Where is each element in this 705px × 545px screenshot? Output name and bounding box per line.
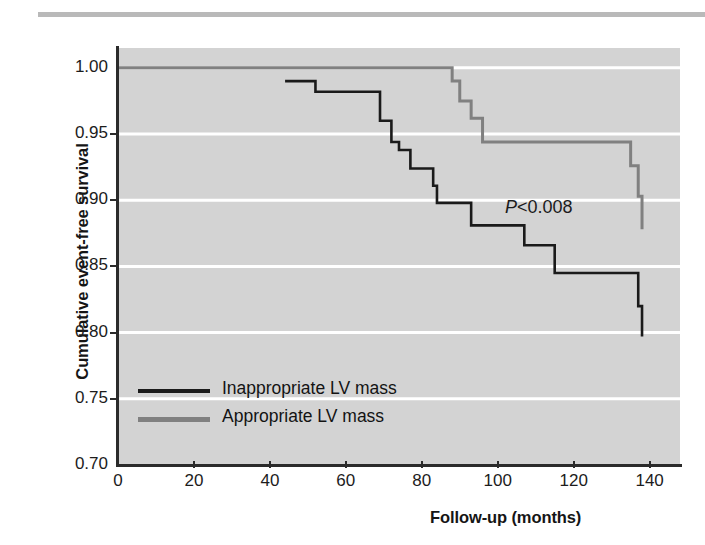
y-tick-mark (110, 265, 118, 267)
x-tick-label: 140 (620, 471, 680, 491)
figure-container: Cumulative event-free survival 0.700.750… (0, 0, 705, 545)
x-tick-mark (497, 461, 499, 468)
legend-entry-label: Appropriate LV mass (222, 406, 384, 427)
y-tick-label: 0.90 (34, 189, 108, 209)
x-tick-mark (421, 461, 423, 468)
series-line-1 (285, 81, 642, 336)
x-tick-label: 100 (468, 471, 528, 491)
x-tick-mark (345, 461, 347, 468)
x-tick-label: 40 (240, 471, 300, 491)
x-tick-mark (649, 461, 651, 468)
x-tick-mark (269, 461, 271, 468)
x-axis-spine (116, 464, 682, 467)
plot-area (118, 48, 680, 465)
y-tick-mark (110, 199, 118, 201)
legend-color-swatch (138, 389, 210, 393)
y-tick-mark (110, 133, 118, 135)
y-tick-label: 0.95 (34, 123, 108, 143)
x-tick-label: 80 (392, 471, 452, 491)
x-axis-title: Follow-up (months) (430, 508, 581, 527)
p-value-annotation: P<0.008 (505, 197, 573, 218)
y-axis-spine (116, 46, 119, 467)
p-symbol: P (505, 197, 517, 217)
x-tick-label: 120 (544, 471, 604, 491)
y-tick-label: 1.00 (34, 57, 108, 77)
gridlines-group (118, 68, 680, 399)
x-tick-mark (573, 461, 575, 468)
x-tick-label: 20 (164, 471, 224, 491)
y-tick-mark (110, 398, 118, 400)
y-tick-label: 0.85 (34, 255, 108, 275)
y-tick-mark (110, 332, 118, 334)
y-tick-label: 0.75 (34, 388, 108, 408)
x-tick-label: 60 (316, 471, 376, 491)
y-tick-label: 0.80 (34, 322, 108, 342)
p-value-text: <0.008 (517, 197, 573, 217)
x-tick-label: 0 (88, 471, 148, 491)
legend-entry-label: Inappropriate LV mass (222, 378, 397, 399)
plot-svg (118, 48, 680, 465)
x-tick-mark (193, 461, 195, 468)
legend-color-swatch (138, 417, 210, 422)
decorative-top-rule (38, 12, 705, 17)
